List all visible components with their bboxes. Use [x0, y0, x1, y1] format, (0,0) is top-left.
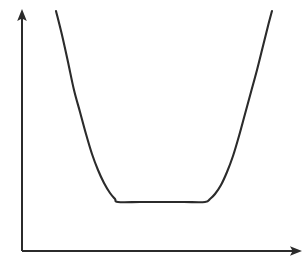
figure-container — [0, 0, 305, 271]
plot-background — [0, 0, 305, 271]
plot-canvas — [0, 0, 305, 271]
